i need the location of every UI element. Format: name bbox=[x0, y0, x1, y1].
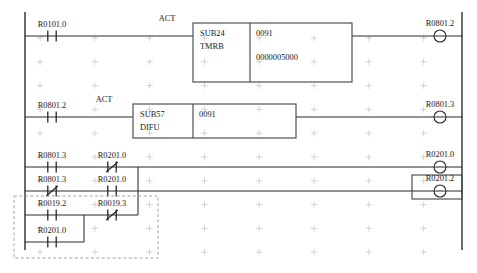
contact-label: R0801.3 bbox=[38, 151, 67, 160]
contact-R0019_3[interactable]: R0019.3 bbox=[98, 199, 127, 220]
rung-2[interactable]: R0801.2SUB57DIFU0091ACTR0801.3 bbox=[25, 95, 462, 138]
contact-label: R0201.0 bbox=[98, 175, 127, 184]
contact-label: R0801.3 bbox=[38, 175, 67, 184]
ladder-diagram-canvas[interactable]: R0101.0SUB24TMRB00910000005000ACTR0801.2… bbox=[0, 0, 477, 273]
block-left-line: SUB24 bbox=[200, 29, 225, 38]
contact-R0201_0[interactable]: R0201.0 bbox=[98, 175, 127, 196]
contact-R0801_2[interactable]: R0801.2 bbox=[38, 101, 67, 122]
rung-1[interactable]: R0101.0SUB24TMRB00910000005000ACTR0801.2 bbox=[25, 14, 462, 82]
rung-group[interactable]: R0101.0SUB24TMRB00910000005000ACTR0801.2… bbox=[25, 14, 462, 247]
contact-R0801_3[interactable]: R0801.3 bbox=[38, 151, 67, 172]
contact-R0019_2[interactable]: R0019.2 bbox=[38, 199, 67, 220]
block-left-line: DIFU bbox=[140, 123, 160, 132]
coil-label: R0801.3 bbox=[426, 100, 455, 109]
power-rails bbox=[25, 12, 462, 250]
rung-3[interactable]: R0801.3R0201.0R0801.3R0201.0R0019.2R0019… bbox=[25, 150, 462, 247]
contact-R0801_3[interactable]: R0801.3 bbox=[38, 175, 67, 196]
coil-label: R0201.2 bbox=[426, 174, 455, 183]
contact-label: R0101.0 bbox=[38, 20, 67, 29]
rung-annotation: ACT bbox=[159, 14, 176, 23]
coil-R0201_2[interactable]: R0201.2 bbox=[426, 174, 455, 197]
coil-label: R0201.0 bbox=[426, 150, 455, 159]
coil-R0801_3[interactable]: R0801.3 bbox=[426, 100, 455, 123]
block-right-line: 0091 bbox=[199, 110, 216, 119]
coil-R0801_2[interactable]: R0801.2 bbox=[426, 19, 455, 42]
contact-R0201_0[interactable]: R0201.0 bbox=[98, 151, 127, 172]
contact-label: R0019.2 bbox=[38, 199, 67, 208]
contact-label: R0801.2 bbox=[38, 101, 67, 110]
rung-annotation: ACT bbox=[96, 95, 113, 104]
contact-label: R0201.0 bbox=[38, 226, 67, 235]
contact-R0201_0[interactable]: R0201.0 bbox=[38, 226, 67, 247]
coil-label: R0801.2 bbox=[426, 19, 455, 28]
block-sub24-tmrb[interactable]: SUB24TMRB00910000005000 bbox=[193, 23, 352, 82]
contact-label: R0019.3 bbox=[98, 199, 127, 208]
block-right-line: 0000005000 bbox=[256, 53, 298, 62]
contact-label: R0201.0 bbox=[98, 151, 127, 160]
selection-box[interactable] bbox=[14, 196, 158, 258]
coil-R0201_0[interactable]: R0201.0 bbox=[426, 150, 455, 173]
block-left-line: SUB57 bbox=[140, 110, 165, 119]
ladder-svg: R0101.0SUB24TMRB00910000005000ACTR0801.2… bbox=[0, 0, 477, 273]
selection-region[interactable] bbox=[14, 196, 158, 258]
background-grid bbox=[37, 35, 427, 256]
block-left-line: TMRB bbox=[200, 42, 224, 51]
block-right-line: 0091 bbox=[256, 29, 273, 38]
block-sub57-difu[interactable]: SUB57DIFU0091 bbox=[133, 104, 296, 138]
